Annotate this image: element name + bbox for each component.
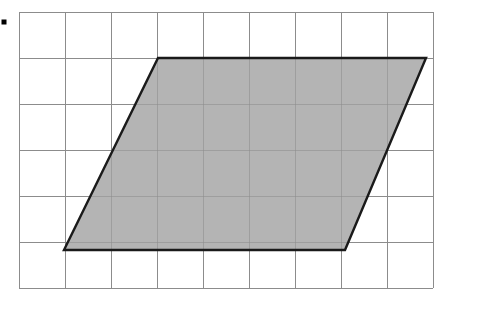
- bullet-point-icon: [2, 20, 7, 25]
- figure-container: [0, 0, 491, 311]
- geometry-figure-svg: [0, 0, 491, 311]
